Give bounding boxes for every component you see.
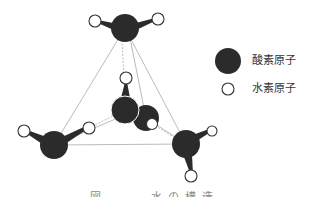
figure-caption: 図 ── 水の構造: [90, 188, 219, 197]
oxygen-atom-top: [111, 14, 139, 42]
water-tetrahedral-diagram: [0, 0, 310, 197]
legend-oxygen-icon: [215, 48, 241, 74]
tetrahedron-edges: [54, 28, 186, 145]
oxygen-atom-right: [172, 130, 200, 158]
oxygen-atom-center: [111, 96, 139, 124]
hydrogen-atom-behind: [147, 119, 158, 130]
legend-label-oxygen: 酸素原子: [252, 55, 296, 67]
legend-label-hydrogen: 水素原子: [252, 83, 296, 95]
legend-hydrogen-icon: [222, 83, 234, 95]
oxygen-atom-left: [40, 131, 68, 159]
